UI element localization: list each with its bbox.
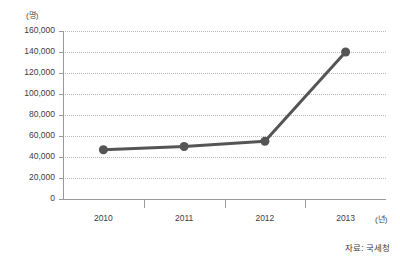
y-axis-tick-label: 60,000 <box>0 130 55 140</box>
x-axis-unit-label: (년) <box>375 213 387 224</box>
y-axis-tick-label: 40,000 <box>0 151 55 161</box>
x-axis-tick-label: 2013 <box>336 213 355 223</box>
gridline <box>63 94 386 95</box>
y-axis-tick-label: 120,000 <box>0 67 55 77</box>
y-axis-tick-label: 0 <box>0 193 55 203</box>
gridline <box>63 115 386 116</box>
x-axis-tick <box>144 199 145 208</box>
x-axis-tick-label: 2010 <box>94 213 113 223</box>
y-axis-tick-label: 80,000 <box>0 109 55 119</box>
gridline <box>63 73 386 74</box>
source-note: 자료: 국세청 <box>345 241 390 253</box>
chart-container: (명) 020,00040,00060,00080,000100,000120,… <box>0 0 400 261</box>
y-axis-line <box>63 31 64 199</box>
x-axis-tick-label: 2011 <box>175 213 193 223</box>
x-axis-tick <box>305 199 306 208</box>
x-axis-tick-label: 2012 <box>255 213 274 223</box>
y-axis-unit-label: (명) <box>26 9 38 20</box>
gridline <box>63 178 386 179</box>
y-axis-tick-label: 100,000 <box>0 88 55 98</box>
data-point-marker <box>260 137 269 146</box>
series-markers <box>99 48 350 155</box>
gridline <box>63 52 386 53</box>
y-axis-tick-label: 140,000 <box>0 46 55 56</box>
gridline <box>63 31 386 32</box>
data-point-marker <box>99 145 108 154</box>
y-axis-tick-label: 20,000 <box>0 172 55 182</box>
data-point-marker <box>180 142 189 151</box>
y-axis-tick-label: 160,000 <box>0 25 55 35</box>
gridline <box>63 157 386 158</box>
gridline <box>63 136 386 137</box>
x-axis-tick <box>225 199 226 208</box>
